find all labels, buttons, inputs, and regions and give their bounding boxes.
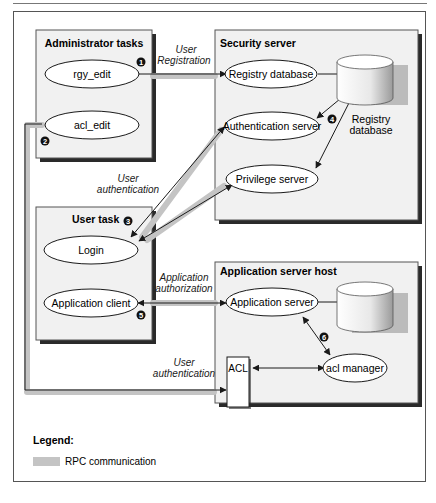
svg-text:5: 5 (139, 311, 143, 320)
edge-label-app-authorization-1: Application (159, 272, 209, 283)
edge-label-user-auth-top-1: User (117, 173, 139, 184)
edge-label-app-authorization-2: authorization (155, 283, 213, 294)
node-registry-database[interactable]: Registry database (225, 60, 317, 88)
node-authentication-server[interactable]: Authentication server (223, 112, 322, 140)
admin-tasks-box (36, 30, 156, 162)
app-server-host-title: Application server host (220, 265, 337, 277)
acl-box[interactable]: ACL (227, 357, 251, 409)
node-rgy-edit[interactable]: rgy_edit (45, 60, 139, 88)
legend-rpc-swatch (33, 457, 60, 466)
node-acl-manager[interactable]: acl manager (323, 354, 387, 382)
user-task-box (36, 207, 156, 344)
acl-label: ACL (228, 363, 248, 374)
registry-db-label-line2: database (349, 124, 392, 136)
legend-rpc-label: RPC communication (65, 456, 156, 467)
security-architecture-diagram: Administrator tasks Security server User… (0, 0, 436, 503)
node-label: Registry database (229, 68, 314, 80)
node-login[interactable]: Login (44, 236, 138, 264)
svg-text:3: 3 (126, 217, 130, 226)
edge-label-user-auth-bottom-2: authentication (153, 368, 216, 379)
security-server-title: Security server (220, 37, 296, 49)
edge-label-user-registration-1: User (175, 44, 197, 55)
node-privilege-server[interactable]: Privilege server (226, 165, 318, 193)
svg-text:2: 2 (43, 137, 47, 146)
admin-tasks-title: Administrator tasks (45, 37, 144, 49)
svg-text:6: 6 (322, 333, 326, 342)
node-label: Application client (52, 297, 131, 309)
node-label: acl_edit (74, 119, 110, 131)
svg-text:1: 1 (139, 58, 143, 67)
node-application-client[interactable]: Application client (44, 289, 138, 317)
user-task-title: User task (72, 213, 119, 225)
node-acl-edit[interactable]: acl_edit (45, 111, 139, 139)
node-label: rgy_edit (73, 68, 110, 80)
edge-label-user-auth-top-2: authentication (97, 184, 160, 195)
node-application-server[interactable]: Application server (226, 288, 318, 316)
node-label: Authentication server (223, 120, 322, 132)
node-label: Login (78, 244, 104, 256)
node-label: Application server (230, 296, 314, 308)
legend-title: Legend: (33, 434, 74, 446)
edge-label-user-registration-2: Registration (157, 55, 211, 66)
node-label: acl manager (326, 362, 384, 374)
node-label: Privilege server (236, 173, 309, 185)
edge-label-user-auth-bottom-1: User (173, 357, 195, 368)
